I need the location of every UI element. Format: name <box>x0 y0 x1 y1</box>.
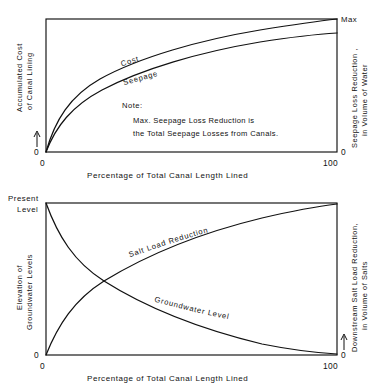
bottom-chart-y-right-axis-title-line2: in Volume of Salts <box>360 261 369 330</box>
bottom-chart-groundwater-level-curve <box>46 203 337 354</box>
bottom-chart-y-left-axis-title-line2: Groundwater Levels <box>25 254 34 330</box>
top-chart-y-right-tick-max: Max <box>341 15 357 24</box>
top-chart-note-line-2: the Total Seepage Losses from Canals. <box>133 129 278 138</box>
top-chart-y-left-axis-title-line1: Accumulated Cost <box>15 43 24 112</box>
bottom-chart-salt-load-reduction-curve <box>46 204 337 355</box>
bottom-chart-x-tick-zero: 0 <box>40 361 45 371</box>
bottom-chart-salt-curve-label: Salt Load Reduction <box>127 225 209 259</box>
top-chart-y-right-axis-title-line1: Seepage Loss Reduction , <box>350 48 359 148</box>
bottom-chart-right-axis-arrow-icon <box>341 334 347 350</box>
bottom-chart-y-right-tick-zero: 0 <box>341 350 346 360</box>
bottom-chart-x-axis-title: Percentage of Total Canal Length Lined <box>87 374 248 383</box>
bottom-chart-y-left-tick-zero: 0 <box>34 350 39 360</box>
bottom-chart-y-left-axis-title-line1: Elevation of <box>15 264 24 310</box>
top-chart-left-axis-arrow-icon <box>34 131 40 147</box>
top-chart-x-tick-max: 100 <box>323 158 338 168</box>
bottom-chart-plot-frame <box>46 203 337 355</box>
top-chart-y-left-axis-title-line2: of Canal Lining <box>25 52 34 110</box>
bottom-chart-x-tick-max: 100 <box>323 361 338 371</box>
top-chart-note-heading: Note: <box>122 101 143 110</box>
top-chart-x-tick-zero: 0 <box>40 158 45 168</box>
bottom-chart-present-level-label-line1: Present <box>8 194 39 203</box>
bottom-chart-y-right-axis-title-line1: Downstream Salt Load Reduction, <box>350 223 359 352</box>
bottom-chart: Salt Load Reduction Groundwater Level El… <box>8 194 369 383</box>
top-chart: Cost Seepage Note: Max. Seepage Loss Red… <box>15 15 369 180</box>
top-chart-y-left-tick-zero: 0 <box>34 147 39 157</box>
top-chart-seepage-curve-label: Seepage <box>122 69 159 87</box>
bottom-chart-present-level-label-line2: Level <box>17 205 38 214</box>
top-chart-y-right-axis-title-line2: in Volume of Water <box>360 64 369 136</box>
canal-lining-effects-figure: Cost Seepage Note: Max. Seepage Loss Red… <box>0 0 382 391</box>
bottom-chart-groundwater-curve-label: Groundwater Level <box>153 295 230 322</box>
top-chart-note-line-1: Max. Seepage Loss Reduction is <box>133 116 255 125</box>
top-chart-cost-curve-label: Cost <box>120 54 141 68</box>
top-chart-x-axis-title: Percentage of Total Canal Length Lined <box>87 171 248 180</box>
top-chart-y-right-tick-zero: 0 <box>341 147 346 157</box>
